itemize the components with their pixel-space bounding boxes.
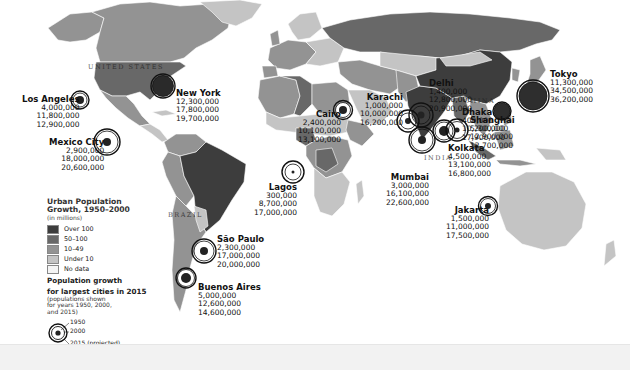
map-legend: Urban Population Growth, 1950–2000 (in m… [47,198,157,352]
swatch-under-10 [47,255,59,264]
marker-buenos-aires[interactable] [176,268,196,288]
pop-2015: 16,200,000 [360,119,403,127]
pop-2015: 36,200,000 [550,96,593,104]
legend-title-line2: Growth, 1950–2000 [47,206,157,214]
legend-label: No data [64,265,89,273]
pop-2015: 16,800,000 [448,170,491,178]
legend-label: Over 100 [64,225,94,233]
pop-2015: 12,900,000 [22,121,80,129]
swatch-10-49 [47,245,59,254]
legend-item-no-data: No data [47,264,157,274]
city-label-mumbai: Mumbai 3,000,000 16,100,000 22,600,000 [386,173,429,207]
pop-2015: 14,600,000 [198,309,261,317]
pop-2015: 12,700,000 [470,142,515,150]
pop-2015: 22,600,000 [386,199,429,207]
ring-label-2000: 2000 [70,327,85,334]
growth-title-line1: Population growth [47,277,157,285]
legend-label: 50–100 [64,235,88,243]
marker-tokyo[interactable] [517,80,549,112]
iberia [262,66,278,78]
city-label-shanghai: Shanghai 5,300,000 12,900,000 12,700,000 [470,116,515,150]
growth-note-line3: and 2015) [47,309,157,316]
pop-2015: 17,000,000 [254,209,297,217]
pop-2015: 20,600,000 [49,164,104,172]
legend-item-over-100: Over 100 [47,224,157,234]
swatch-no-data [47,265,59,274]
swatch-over-100 [47,225,59,234]
city-label-tokyo: Tokyo 11,300,000 34,500,000 36,200,000 [550,70,593,104]
pop-2015: 13,100,000 [298,136,341,144]
country-label-united-states: UNITED STATES [88,63,164,71]
legend-item-10-49: 10–49 [47,244,157,254]
legend-subtitle: (in millions) [47,214,157,221]
swatch-50-100 [47,235,59,244]
city-label-jakarta: Jakarta 1,500,000 11,000,000 17,500,000 [446,206,489,240]
pop-2015: 17,500,000 [446,232,489,240]
city-label-los-angeles: Los Angeles 4,000,000 11,800,000 12,900,… [22,95,80,129]
ring-label-1950: 1950 [70,318,85,325]
city-label-cairo: Cairo 2,400,000 10,100,000 13,100,000 [298,110,341,144]
marker-sao-paulo[interactable] [192,239,216,263]
city-label-mexico-city: Mexico City 2,900,000 18,000,000 20,600,… [49,138,104,172]
city-label-sao-paulo: São Paulo 2,300,000 17,000,000 20,000,00… [217,235,264,269]
city-label-lagos: Lagos 300,000 8,700,000 17,000,000 [254,183,297,217]
marker-new-york[interactable] [151,74,175,98]
legend-label: 10–49 [64,245,83,253]
city-label-karachi: Karachi 1,000,000 10,000,000 16,200,000 [360,93,403,127]
marker-lagos[interactable] [282,161,304,183]
city-label-new-york: New York 12,300,000 17,800,000 19,700,00… [176,89,221,123]
legend-item-under-10: Under 10 [47,254,157,264]
legend-label: Under 10 [64,255,94,263]
bottom-bar [0,344,630,370]
pop-2015: 20,000,000 [217,261,264,269]
pop-2015: 19,700,000 [176,115,221,123]
city-label-buenos-aires: Buenos Aires 5,000,000 12,600,000 14,600… [198,283,261,317]
country-label-brazil: BRAZIL [168,211,203,219]
legend-item-50-100: 50–100 [47,234,157,244]
